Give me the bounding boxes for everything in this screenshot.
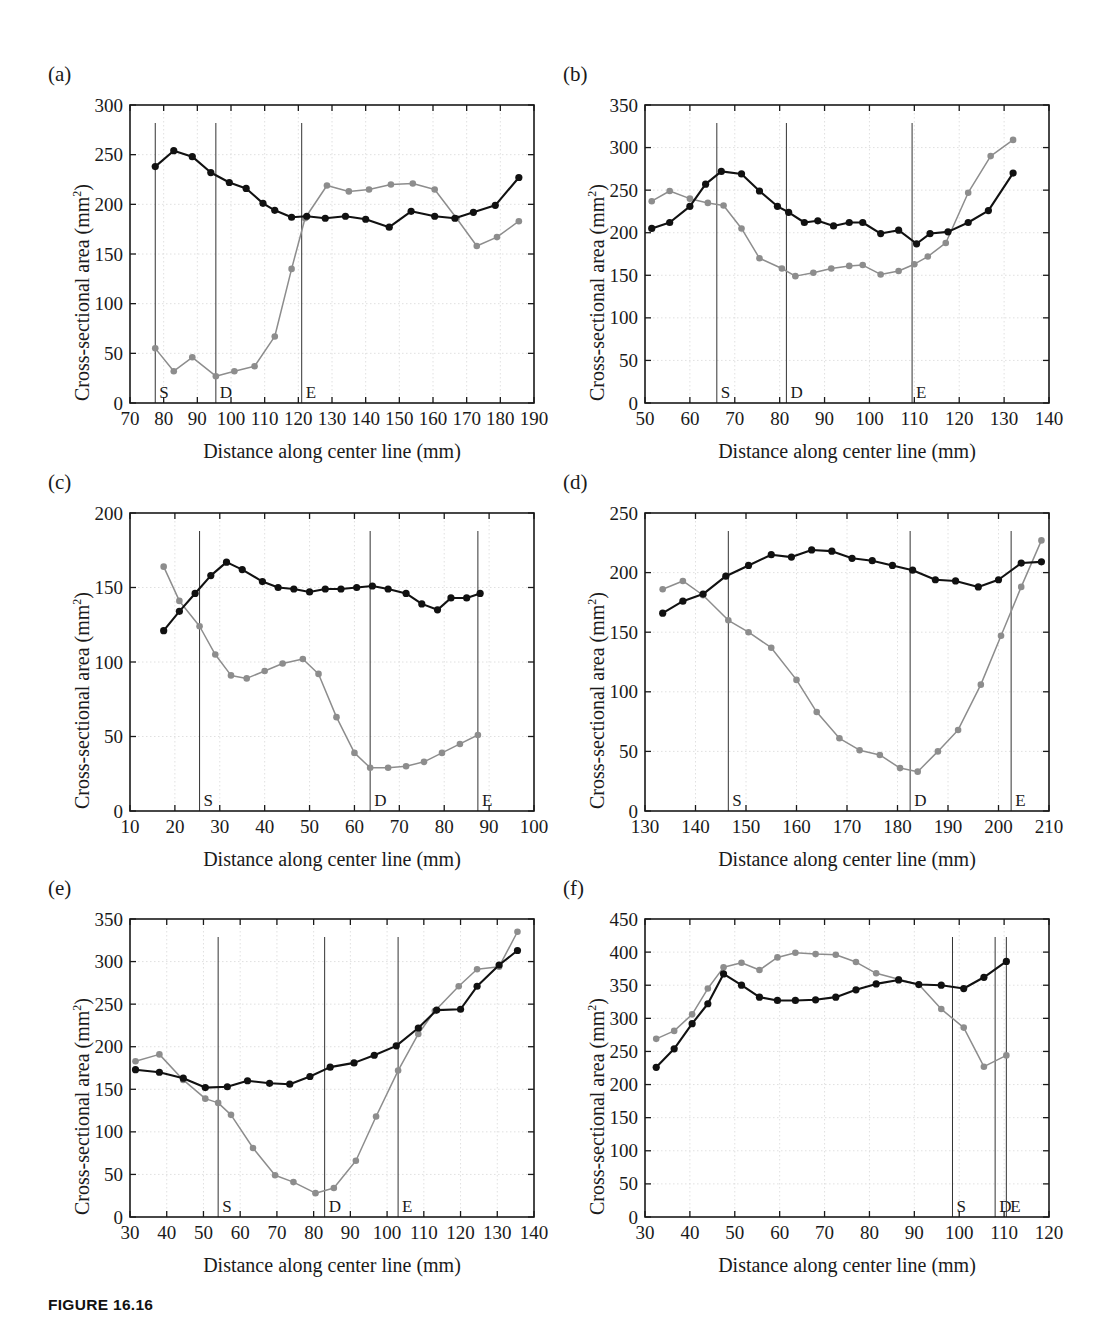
svg-text:D: D bbox=[374, 791, 386, 810]
svg-text:0: 0 bbox=[114, 393, 124, 414]
svg-text:150: 150 bbox=[732, 816, 761, 837]
svg-text:90: 90 bbox=[341, 1222, 360, 1243]
svg-text:350: 350 bbox=[95, 909, 124, 930]
svg-text:70: 70 bbox=[815, 1222, 834, 1243]
svg-text:150: 150 bbox=[610, 1107, 639, 1128]
svg-text:100: 100 bbox=[610, 1140, 639, 1161]
svg-text:90: 90 bbox=[480, 816, 499, 837]
svg-text:200: 200 bbox=[95, 194, 124, 215]
svg-text:450: 450 bbox=[610, 909, 639, 930]
svg-text:120: 120 bbox=[446, 1222, 475, 1243]
svg-text:190: 190 bbox=[934, 816, 963, 837]
svg-text:40: 40 bbox=[255, 816, 274, 837]
svg-text:200: 200 bbox=[610, 222, 639, 243]
svg-text:0: 0 bbox=[629, 801, 639, 822]
svg-text:250: 250 bbox=[95, 144, 124, 165]
svg-text:150: 150 bbox=[610, 265, 639, 286]
svg-text:0: 0 bbox=[629, 393, 639, 414]
svg-text:60: 60 bbox=[231, 1222, 250, 1243]
svg-text:250: 250 bbox=[610, 180, 639, 201]
svg-text:30: 30 bbox=[210, 816, 229, 837]
svg-text:100: 100 bbox=[520, 816, 549, 837]
chart-panel-c: (c)Cross-sectional area (mm2)Distance al… bbox=[48, 470, 553, 870]
svg-text:80: 80 bbox=[304, 1222, 323, 1243]
svg-text:150: 150 bbox=[95, 244, 124, 265]
svg-text:D: D bbox=[329, 1197, 341, 1216]
svg-text:60: 60 bbox=[680, 408, 699, 429]
svg-text:190: 190 bbox=[520, 408, 549, 429]
svg-text:150: 150 bbox=[610, 622, 639, 643]
svg-text:300: 300 bbox=[610, 137, 639, 158]
svg-text:S: S bbox=[956, 1197, 965, 1216]
svg-text:80: 80 bbox=[860, 1222, 879, 1243]
plot-area-c: SDE102030405060708090100050100150200 bbox=[48, 470, 553, 870]
chart-panel-f: (f)Cross-sectional area (mm2)Distance al… bbox=[563, 876, 1068, 1276]
svg-text:100: 100 bbox=[610, 307, 639, 328]
svg-text:80: 80 bbox=[770, 408, 789, 429]
svg-text:50: 50 bbox=[619, 350, 638, 371]
svg-text:50: 50 bbox=[300, 816, 319, 837]
svg-text:E: E bbox=[1015, 791, 1025, 810]
svg-text:50: 50 bbox=[104, 1164, 123, 1185]
svg-text:50: 50 bbox=[619, 741, 638, 762]
svg-text:E: E bbox=[482, 791, 492, 810]
svg-text:20: 20 bbox=[165, 816, 184, 837]
svg-text:150: 150 bbox=[95, 1079, 124, 1100]
svg-text:0: 0 bbox=[114, 801, 124, 822]
svg-text:110: 110 bbox=[251, 408, 279, 429]
svg-text:300: 300 bbox=[610, 1008, 639, 1029]
svg-text:140: 140 bbox=[1035, 408, 1064, 429]
svg-text:60: 60 bbox=[770, 1222, 789, 1243]
svg-text:130: 130 bbox=[990, 408, 1019, 429]
svg-text:50: 50 bbox=[636, 408, 655, 429]
plot-area-a: SDE7080901001101201301401501601701801900… bbox=[48, 62, 553, 462]
svg-text:180: 180 bbox=[486, 408, 515, 429]
svg-text:40: 40 bbox=[157, 1222, 176, 1243]
svg-text:350: 350 bbox=[610, 975, 639, 996]
svg-text:70: 70 bbox=[725, 408, 744, 429]
plot-area-b: SDE5060708090100110120130140050100150200… bbox=[563, 62, 1068, 462]
svg-text:110: 110 bbox=[410, 1222, 438, 1243]
svg-text:300: 300 bbox=[95, 951, 124, 972]
svg-text:130: 130 bbox=[318, 408, 347, 429]
svg-text:E: E bbox=[306, 383, 316, 402]
svg-text:170: 170 bbox=[452, 408, 481, 429]
svg-text:D: D bbox=[914, 791, 926, 810]
plot-area-f: SDE3040506070809010011012005010015020025… bbox=[563, 876, 1068, 1276]
svg-text:0: 0 bbox=[114, 1207, 124, 1228]
svg-text:250: 250 bbox=[610, 1041, 639, 1062]
svg-text:S: S bbox=[721, 383, 730, 402]
svg-text:E: E bbox=[402, 1197, 412, 1216]
svg-text:50: 50 bbox=[104, 343, 123, 364]
svg-text:130: 130 bbox=[483, 1222, 512, 1243]
svg-text:250: 250 bbox=[95, 994, 124, 1015]
svg-text:200: 200 bbox=[610, 1074, 639, 1095]
svg-text:140: 140 bbox=[351, 408, 380, 429]
chart-panel-a: (a)Cross-sectional area (mm2)Distance al… bbox=[48, 62, 553, 462]
svg-text:400: 400 bbox=[610, 942, 639, 963]
svg-text:30: 30 bbox=[121, 1222, 140, 1243]
svg-text:E: E bbox=[916, 383, 926, 402]
svg-text:60: 60 bbox=[345, 816, 364, 837]
svg-text:90: 90 bbox=[188, 408, 207, 429]
svg-text:140: 140 bbox=[520, 1222, 549, 1243]
svg-text:120: 120 bbox=[945, 408, 974, 429]
svg-text:90: 90 bbox=[905, 1222, 924, 1243]
svg-text:350: 350 bbox=[610, 95, 639, 116]
svg-text:30: 30 bbox=[636, 1222, 655, 1243]
svg-text:0: 0 bbox=[629, 1207, 639, 1228]
chart-panel-b: (b)Cross-sectional area (mm2)Distance al… bbox=[563, 62, 1068, 462]
svg-text:E: E bbox=[1010, 1197, 1020, 1216]
svg-text:10: 10 bbox=[121, 816, 140, 837]
plot-area-e: SDE3040506070809010011012013014005010015… bbox=[48, 876, 553, 1276]
svg-text:160: 160 bbox=[419, 408, 448, 429]
svg-text:100: 100 bbox=[95, 652, 124, 673]
svg-text:120: 120 bbox=[1035, 1222, 1064, 1243]
svg-text:170: 170 bbox=[833, 816, 862, 837]
svg-text:250: 250 bbox=[610, 503, 639, 524]
svg-text:50: 50 bbox=[725, 1222, 744, 1243]
svg-text:200: 200 bbox=[95, 1036, 124, 1057]
svg-text:110: 110 bbox=[990, 1222, 1018, 1243]
svg-text:100: 100 bbox=[945, 1222, 974, 1243]
svg-text:150: 150 bbox=[385, 408, 414, 429]
